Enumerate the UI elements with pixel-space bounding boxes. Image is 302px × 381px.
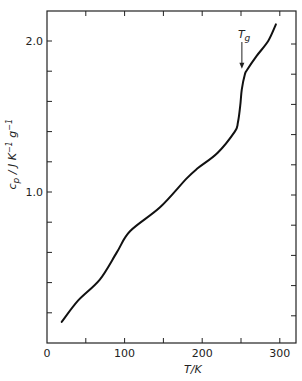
y-tick-label: 1.0 (26, 186, 44, 199)
x-axis-ticks: 0100200300 (44, 11, 291, 360)
cp-curve (62, 24, 276, 322)
x-axis-label: T/K (184, 363, 202, 376)
x-tick-label: 0 (44, 347, 51, 360)
x-tick-label: 300 (269, 347, 290, 360)
x-tick-label: 100 (114, 347, 135, 360)
y-axis-ticks: 1.02.0 (26, 35, 297, 316)
tg-label: Tg (238, 28, 251, 43)
tg-arrow-head-icon (239, 63, 244, 69)
y-axis-label: cp / J K−1 g−1 (5, 119, 21, 190)
tg-annotation: Tg (238, 28, 251, 69)
cp-vs-temperature-chart: 0100200300 1.02.0 Tg T/K cp / J K−1 g−1 (0, 0, 302, 381)
x-tick-label: 200 (192, 347, 213, 360)
y-tick-label: 2.0 (26, 35, 44, 48)
